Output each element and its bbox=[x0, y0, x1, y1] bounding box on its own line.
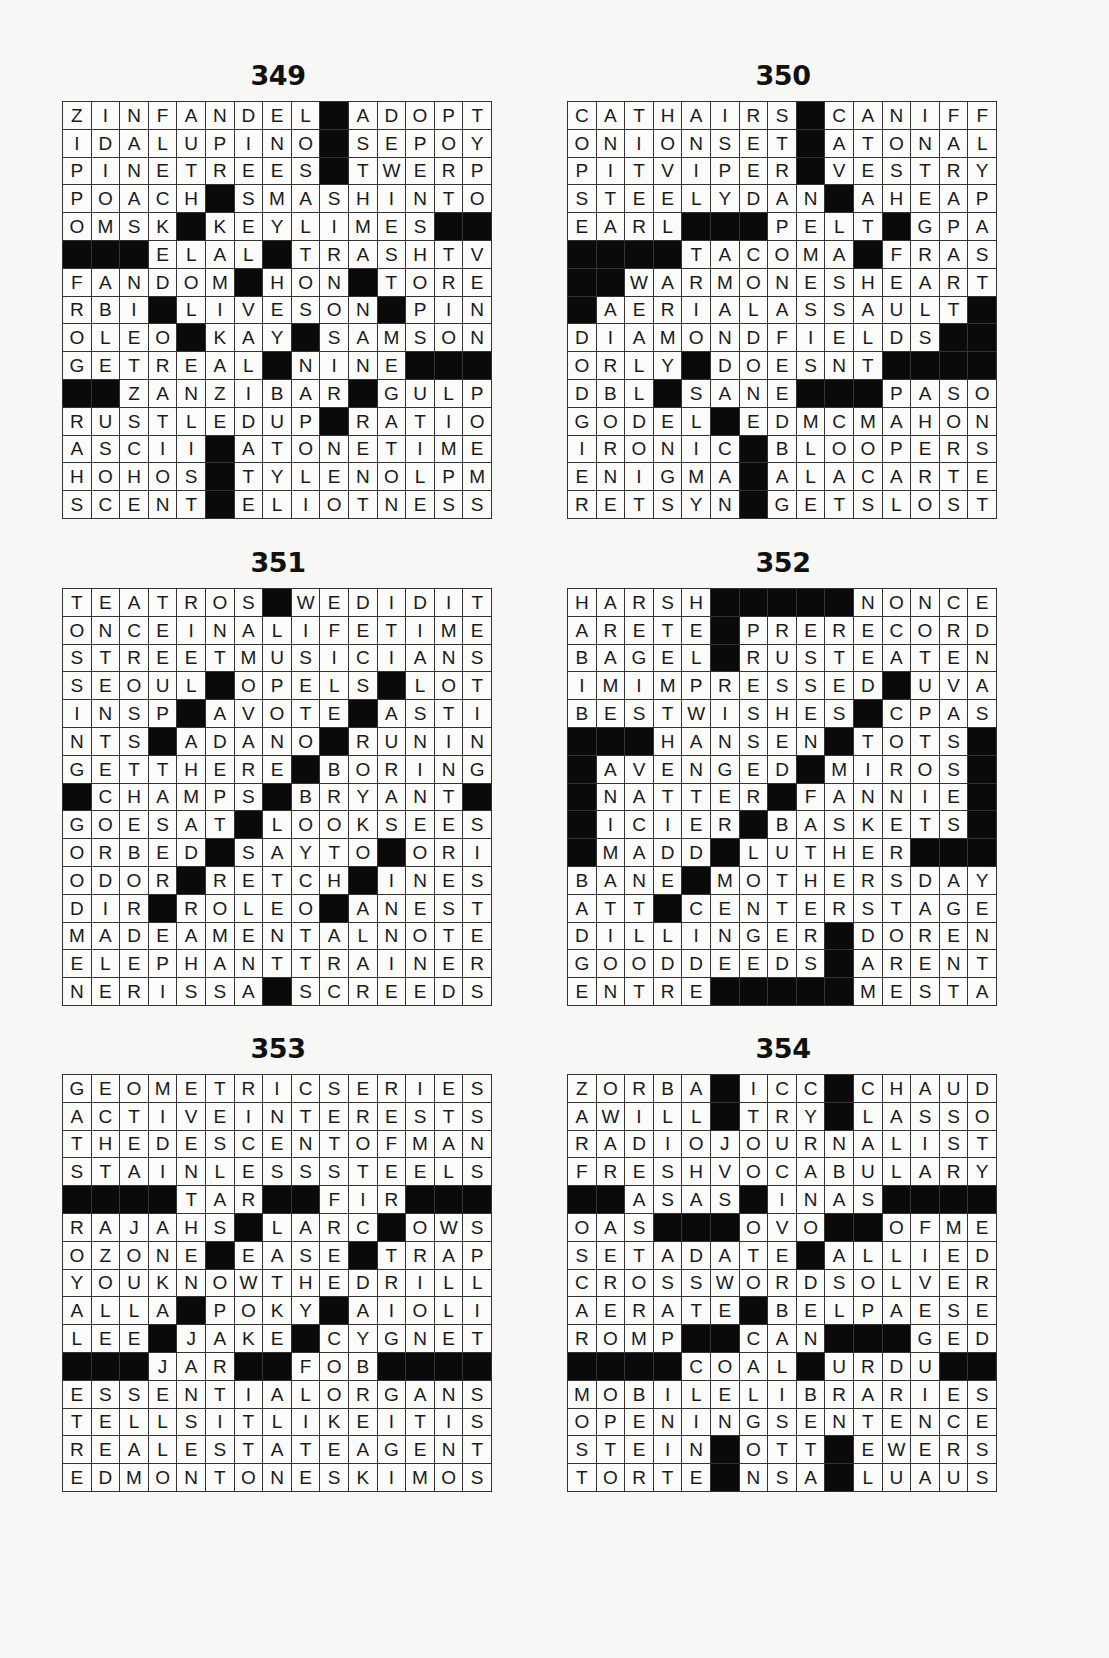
letter-cell: N bbox=[711, 324, 739, 351]
letter-cell: A bbox=[854, 1381, 882, 1408]
black-square bbox=[206, 491, 234, 518]
letter-cell: E bbox=[825, 867, 853, 894]
letter-cell: E bbox=[320, 1436, 348, 1463]
letter-cell: D bbox=[968, 1325, 996, 1352]
letter-cell: O bbox=[177, 269, 205, 296]
letter-cell: I bbox=[406, 756, 434, 783]
letter-cell: J bbox=[177, 1325, 205, 1352]
letter-cell: I bbox=[149, 1158, 177, 1185]
letter-cell: A bbox=[854, 297, 882, 324]
letter-cell: N bbox=[711, 1409, 739, 1436]
letter-cell: E bbox=[235, 1158, 263, 1185]
letter-cell: E bbox=[825, 324, 853, 351]
letter-cell: E bbox=[92, 352, 120, 379]
black-square bbox=[463, 352, 491, 379]
letter-cell: Z bbox=[120, 380, 148, 407]
letter-cell: N bbox=[320, 436, 348, 463]
letter-cell: L bbox=[625, 352, 653, 379]
letter-cell: O bbox=[406, 102, 434, 129]
letter-cell: L bbox=[883, 491, 911, 518]
letter-cell: N bbox=[797, 185, 825, 212]
black-square bbox=[235, 1214, 263, 1241]
letter-cell: R bbox=[797, 923, 825, 950]
letter-cell: C bbox=[92, 491, 120, 518]
black-square bbox=[654, 1353, 682, 1380]
letter-cell: L bbox=[149, 1409, 177, 1436]
letter-cell: E bbox=[940, 923, 968, 950]
letter-cell: S bbox=[120, 728, 148, 755]
letter-cell: P bbox=[206, 130, 234, 157]
letter-cell: U bbox=[883, 1464, 911, 1491]
black-square bbox=[711, 1103, 739, 1130]
letter-cell: G bbox=[63, 756, 91, 783]
letter-cell: I bbox=[292, 491, 320, 518]
black-square bbox=[825, 978, 853, 1005]
letter-cell: I bbox=[63, 700, 91, 727]
black-square bbox=[883, 1186, 911, 1213]
letter-cell: P bbox=[568, 158, 596, 185]
letter-cell: E bbox=[320, 1242, 348, 1269]
letter-cell: I bbox=[378, 950, 406, 977]
letter-cell: L bbox=[768, 1353, 796, 1380]
letter-cell: R bbox=[911, 241, 939, 268]
black-square bbox=[463, 1186, 491, 1213]
letter-cell: E bbox=[406, 1436, 434, 1463]
letter-cell: I bbox=[406, 617, 434, 644]
letter-cell: S bbox=[292, 1242, 320, 1269]
letter-cell: R bbox=[378, 1270, 406, 1297]
letter-cell: E bbox=[292, 1464, 320, 1491]
letter-cell: N bbox=[435, 645, 463, 672]
letter-cell: L bbox=[120, 1409, 148, 1436]
letter-cell: T bbox=[349, 1158, 377, 1185]
letter-cell: A bbox=[120, 130, 148, 157]
letter-cell: T bbox=[206, 1464, 234, 1491]
letter-cell: N bbox=[406, 1325, 434, 1352]
letter-cell: O bbox=[206, 589, 234, 616]
letter-cell: C bbox=[768, 1075, 796, 1102]
letter-cell: E bbox=[682, 1464, 710, 1491]
black-square bbox=[797, 978, 825, 1005]
letter-cell: E bbox=[911, 185, 939, 212]
letter-cell: O bbox=[206, 1270, 234, 1297]
letter-cell: L bbox=[883, 1242, 911, 1269]
letter-cell: R bbox=[378, 756, 406, 783]
black-square bbox=[320, 728, 348, 755]
letter-cell: R bbox=[825, 895, 853, 922]
letter-cell: O bbox=[654, 130, 682, 157]
letter-cell: R bbox=[120, 895, 148, 922]
letter-cell: F bbox=[768, 324, 796, 351]
letter-cell: N bbox=[406, 867, 434, 894]
letter-cell: N bbox=[740, 380, 768, 407]
letter-cell: V bbox=[654, 158, 682, 185]
letter-cell: E bbox=[625, 617, 653, 644]
black-square bbox=[349, 269, 377, 296]
letter-cell: O bbox=[320, 1381, 348, 1408]
black-square bbox=[435, 352, 463, 379]
black-square bbox=[625, 241, 653, 268]
letter-cell: C bbox=[768, 1158, 796, 1185]
letter-cell: U bbox=[406, 380, 434, 407]
letter-cell: N bbox=[435, 1381, 463, 1408]
letter-cell: D bbox=[120, 923, 148, 950]
letter-cell: R bbox=[911, 923, 939, 950]
letter-cell: S bbox=[968, 241, 996, 268]
letter-cell: O bbox=[349, 839, 377, 866]
letter-cell: U bbox=[768, 839, 796, 866]
letter-cell: E bbox=[92, 1436, 120, 1463]
letter-cell: S bbox=[406, 324, 434, 351]
letter-cell: N bbox=[883, 102, 911, 129]
letter-cell: P bbox=[406, 130, 434, 157]
black-square bbox=[797, 1353, 825, 1380]
letter-cell: S bbox=[463, 978, 491, 1005]
letter-cell: N bbox=[597, 784, 625, 811]
letter-cell: L bbox=[854, 1242, 882, 1269]
letter-cell: M bbox=[825, 756, 853, 783]
letter-cell: L bbox=[854, 1464, 882, 1491]
letter-cell: J bbox=[120, 1214, 148, 1241]
letter-cell: N bbox=[63, 978, 91, 1005]
letter-cell: M bbox=[263, 185, 291, 212]
letter-cell: T bbox=[768, 130, 796, 157]
letter-cell: K bbox=[206, 213, 234, 240]
letter-cell: H bbox=[568, 589, 596, 616]
letter-cell: O bbox=[63, 324, 91, 351]
